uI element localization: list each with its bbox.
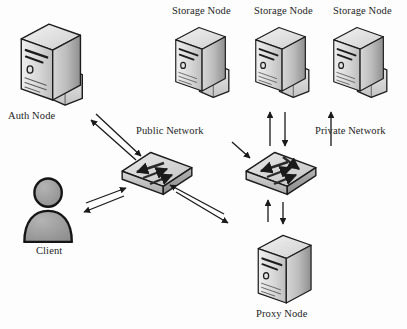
link-storage1-private [232,142,250,158]
link-public-proxy [170,185,228,223]
auth-node-label: Auth Node [8,111,55,122]
proxy-node [258,235,311,303]
storage-node-3 [334,27,387,97]
link-auth-public [91,114,141,160]
storage-node-1-label: Storage Node [172,6,231,17]
link-private-proxy [268,200,283,224]
network-diagram [0,0,407,329]
private-network-switch [246,152,316,194]
storage-node-3-label: Storage Node [333,6,392,17]
diagram-canvas: Storage Node Storage Node Storage Node A… [0,0,407,329]
public-network-label: Public Network [136,126,204,137]
client-label: Client [36,246,62,257]
proxy-node-label: Proxy Node [256,309,307,320]
storage-node-2-label: Storage Node [254,6,313,17]
auth-node [21,24,82,105]
storage-node-2 [256,27,309,97]
link-storage2-private [270,112,285,146]
storage-node-1 [176,27,229,97]
private-network-label: Private Network [315,126,386,137]
link-client-public [84,188,126,212]
client-figure [24,179,71,242]
public-network-switch [122,152,192,194]
